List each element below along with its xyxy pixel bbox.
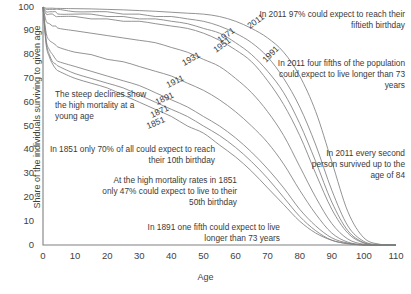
x-tick-50: 50 — [188, 250, 218, 261]
y-tick-60: 60 — [6, 96, 34, 107]
x-tick-10: 10 — [60, 250, 90, 261]
curve-label-1931: 1931 — [180, 50, 202, 68]
annotation-1851-50th-birthday: At the high mortality rates in 1851 only… — [100, 175, 237, 209]
y-tick-0: 0 — [6, 239, 34, 250]
annotation-2011-four-fifths: In 2011 four fifths of the population co… — [275, 58, 405, 92]
x-tick-80: 80 — [285, 250, 315, 261]
y-tick-20: 20 — [6, 191, 34, 202]
x-tick-60: 60 — [221, 250, 251, 261]
y-tick-80: 80 — [6, 48, 34, 59]
x-tick-90: 90 — [317, 250, 347, 261]
annotation-1851-10th-birthday: In 1851 only 70% of all could expect to … — [45, 144, 215, 166]
x-tick-40: 40 — [156, 250, 186, 261]
survival-curves-chart: Share of the individuals surviving to gi… — [0, 0, 411, 294]
x-tick-30: 30 — [124, 250, 154, 261]
y-tick-100: 100 — [6, 1, 34, 12]
y-tick-40: 40 — [6, 143, 34, 154]
y-tick-70: 70 — [6, 72, 34, 83]
y-tick-30: 30 — [6, 167, 34, 178]
annotation-2011-age-84: In 2011 every second person survived up … — [300, 148, 405, 182]
y-tick-50: 50 — [6, 120, 34, 131]
x-tick-70: 70 — [253, 250, 283, 261]
annotation-1891-73-years: In 1891 one fifth could expect to live l… — [135, 222, 280, 244]
x-tick-100: 100 — [349, 250, 379, 261]
x-tick-0: 0 — [28, 250, 58, 261]
y-tick-10: 10 — [6, 215, 34, 226]
annotation-steep-declines: The steep declines show the high mortali… — [55, 89, 150, 123]
x-tick-20: 20 — [92, 250, 122, 261]
y-tick-90: 90 — [6, 24, 34, 35]
x-tick-110: 110 — [381, 250, 411, 261]
annotation-2011-fiftieth-birthday: In 2011 97% could expect to reach their … — [255, 9, 405, 31]
